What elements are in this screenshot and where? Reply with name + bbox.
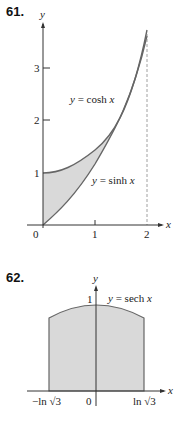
x-tick-neg-ln-sqrt3: −ln √3 [32, 395, 62, 407]
y-axis-arrow-icon [94, 285, 98, 291]
y-tick-3: 3 [34, 62, 40, 74]
x-axis-label: x [167, 384, 173, 396]
y-tick-1: 1 [87, 293, 93, 305]
x-axis-arrow-icon [158, 223, 164, 227]
y-axis-label: y [39, 8, 45, 20]
label-sinh: y = sinh x [91, 174, 135, 186]
chart-62: y x 1 y = sech x −ln √3 0 ln √3 [27, 272, 173, 407]
x-tick-ln-sqrt3: ln √3 [133, 395, 156, 407]
x-axis-arrow-icon [160, 389, 166, 393]
label-cosh: y = cosh x [69, 93, 115, 105]
x-tick-0: 0 [86, 395, 92, 407]
x-tick-2: 2 [144, 228, 150, 240]
x-axis-label: x [165, 218, 171, 230]
y-axis-arrow-icon [41, 22, 45, 28]
x-tick-1: 1 [92, 228, 98, 240]
y-tick-1: 1 [34, 167, 40, 179]
charts-canvas: y x 3 2 1 0 1 2 y = cosh x y = sinh x y … [0, 0, 192, 421]
y-tick-2: 2 [34, 114, 40, 126]
y-axis-label: y [92, 272, 98, 284]
label-sech: y = sech x [107, 292, 152, 304]
shaded-region-cosh-sinh [43, 30, 147, 225]
chart-61: y x 3 2 1 0 1 2 y = cosh x y = sinh x [27, 8, 171, 240]
x-tick-0: 0 [33, 228, 39, 240]
